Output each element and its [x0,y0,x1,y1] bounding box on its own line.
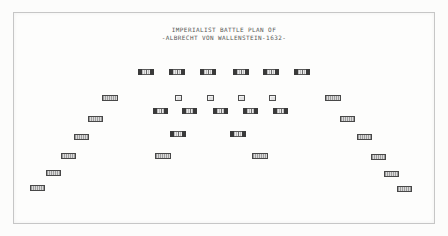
infantry-block [200,69,216,75]
musketeer-wing [306,69,310,75]
infantry-block [294,69,310,75]
cavalry-block [371,154,386,160]
battery-block [175,95,182,101]
pike-centre [298,69,306,75]
cavalry-block [30,185,45,191]
musketeer-wing [212,69,216,75]
pike-centre [217,108,224,114]
battery-block [269,95,276,101]
cavalry-block [74,134,89,140]
cavalry-block [397,186,412,192]
pike-centre [237,69,245,75]
musketeer-wing [150,69,154,75]
pike-centre [234,131,242,137]
cavalry-block [340,116,355,122]
cavalry-block [155,153,171,159]
musketeer-wing [284,108,288,114]
infantry-block [170,131,186,137]
infantry-block [263,69,279,75]
cavalry-block [384,171,399,177]
cavalry-block [357,134,372,140]
battery-block [207,95,214,101]
battery-block [238,95,245,101]
pike-centre [204,69,212,75]
pike-centre [247,108,254,114]
infantry-block [182,108,197,114]
units-layer [0,0,448,236]
cavalry-block [325,95,341,101]
cavalry-block [88,116,103,122]
musketeer-wing [164,108,168,114]
cavalry-block [102,95,118,101]
pike-centre [157,108,164,114]
musketeer-wing [245,69,249,75]
cavalry-block [252,153,268,159]
pike-centre [142,69,150,75]
battle-plan-figure: IMPERIALIST BATTLE PLAN OF -ALBRECHT VON… [0,0,448,236]
cavalry-block [46,170,61,176]
musketeer-wing [242,131,246,137]
infantry-block [213,108,228,114]
pike-centre [186,108,193,114]
cavalry-block [61,153,76,159]
infantry-block [169,69,185,75]
infantry-block [138,69,154,75]
musketeer-wing [275,69,279,75]
musketeer-wing [181,69,185,75]
musketeer-wing [193,108,197,114]
infantry-block [230,131,246,137]
infantry-block [273,108,288,114]
pike-centre [277,108,284,114]
pike-centre [173,69,181,75]
musketeer-wing [224,108,228,114]
infantry-block [153,108,168,114]
pike-centre [267,69,275,75]
musketeer-wing [254,108,258,114]
infantry-block [233,69,249,75]
musketeer-wing [182,131,186,137]
infantry-block [243,108,258,114]
pike-centre [174,131,182,137]
